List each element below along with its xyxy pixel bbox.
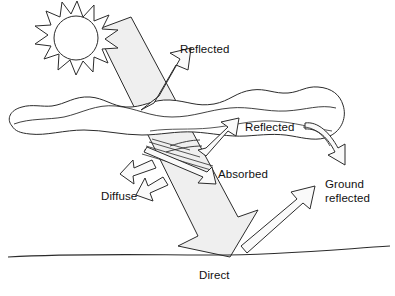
- sun-icon: [35, 1, 118, 75]
- diffuse-arrow-lower: [136, 177, 168, 201]
- diffuse-arrow-upper: [120, 160, 156, 184]
- label-direct: Direct: [199, 269, 230, 282]
- label-reflected-top: Reflected: [180, 43, 229, 56]
- label-ground-reflected: Ground reflected: [325, 178, 370, 205]
- solar-radiation-diagram: Reflected Reflected Absorbed Diffuse Gro…: [0, 0, 395, 296]
- label-absorbed: Absorbed: [218, 168, 268, 181]
- label-diffuse: Diffuse: [101, 190, 137, 203]
- label-reflected-cloud: Reflected: [245, 121, 294, 134]
